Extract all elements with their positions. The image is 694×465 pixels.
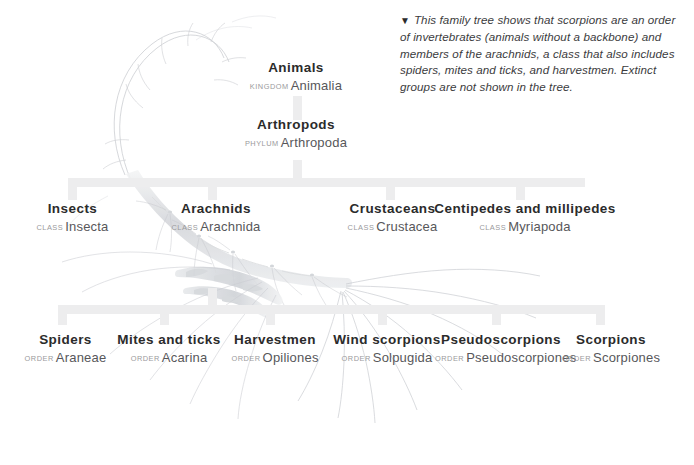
taxon-scientific-name: Arthropoda	[281, 135, 347, 150]
taxon-arthropods[interactable]: Arthropods PHYLUMArthropoda	[216, 117, 376, 152]
taxon-scientific-line: ORDERAcarina	[102, 349, 236, 367]
taxon-common-name: Harvestmen	[218, 332, 332, 348]
connector-order-stub-pseudoscorpions	[492, 305, 501, 325]
taxon-scientific-line: ORDEROpiliones	[218, 349, 332, 367]
taxon-scientific-line: ORDERScorpiones	[546, 349, 676, 367]
taxon-scientific-line: ORDERSolpugida	[325, 349, 449, 367]
taxon-common-name: Insects	[0, 201, 145, 217]
connector-order-rail	[60, 305, 605, 314]
taxon-animals[interactable]: Animals KINGDOMAnimalia	[216, 60, 376, 95]
taxon-rank-label: ORDER	[435, 354, 464, 363]
taxon-scorpions[interactable]: Scorpions ORDERScorpiones	[546, 332, 676, 367]
taxon-scientific-name: Animalia	[291, 78, 342, 93]
taxon-wind-scorpions[interactable]: Wind scorpions ORDERSolpugida	[325, 332, 449, 367]
connector-class-stub-arachnids	[208, 178, 217, 200]
taxon-scientific-name: Solpugida	[373, 350, 433, 365]
taxon-scientific-name: Opiliones	[263, 350, 319, 365]
taxon-scientific-name: Myriapoda	[508, 219, 571, 234]
taxon-scientific-line: CLASSMyriapoda	[432, 218, 618, 236]
taxon-scientific-line: PHYLUMArthropoda	[216, 134, 376, 152]
connector-order-stub-harvestmen	[266, 305, 275, 325]
taxon-rank-label: ORDER	[342, 354, 371, 363]
family-tree-figure: ▼This family tree shows that scorpions a…	[0, 0, 694, 465]
connector-class-stub-insects	[68, 178, 77, 200]
scorpion-tail-curve	[103, 23, 246, 180]
connector-order-stub-spiders	[58, 305, 67, 325]
taxon-common-name: Centipedes and millipedes	[432, 201, 618, 217]
taxon-scientific-line: KINGDOMAnimalia	[216, 77, 376, 95]
taxon-rank-label: CLASS	[348, 223, 375, 232]
connector-class-stub-myriapoda	[516, 178, 525, 200]
taxon-rank-label: PHYLUM	[245, 139, 279, 148]
taxon-myriapods[interactable]: Centipedes and millipedes CLASSMyriapoda	[432, 201, 618, 236]
taxon-rank-label: KINGDOM	[250, 82, 289, 91]
taxon-common-name: Animals	[216, 60, 376, 76]
taxon-common-name: Arthropods	[216, 117, 376, 133]
connector-order-stub-mites	[160, 305, 169, 325]
connector-order-stub-scorpions	[596, 305, 605, 325]
taxon-common-name: Mites and ticks	[102, 332, 236, 348]
taxon-mites-and-ticks[interactable]: Mites and ticks ORDERAcarina	[102, 332, 236, 367]
caption-text: This family tree shows that scorpions ar…	[400, 13, 675, 93]
taxon-rank-label: ORDER	[131, 354, 160, 363]
taxon-scientific-name: Insecta	[65, 219, 108, 234]
taxon-common-name: Wind scorpions	[325, 332, 449, 348]
taxon-rank-label: CLASS	[479, 223, 506, 232]
taxon-scientific-line: CLASSInsecta	[0, 218, 145, 236]
taxon-scientific-name: Scorpiones	[593, 350, 660, 365]
taxon-insects[interactable]: Insects CLASSInsecta	[0, 201, 145, 236]
taxon-scientific-name: Acarina	[162, 350, 207, 365]
taxon-rank-label: ORDER	[231, 354, 260, 363]
caption-triangle-icon: ▼	[400, 15, 410, 26]
figure-caption: ▼This family tree shows that scorpions a…	[400, 12, 688, 95]
taxon-scientific-name: Araneae	[56, 350, 107, 365]
taxon-common-name: Scorpions	[546, 332, 676, 348]
taxon-rank-label: ORDER	[562, 354, 591, 363]
taxon-arachnids[interactable]: Arachnids CLASSArachnida	[140, 201, 292, 236]
taxon-harvestmen[interactable]: Harvestmen ORDEROpiliones	[218, 332, 332, 367]
taxon-rank-label: CLASS	[171, 223, 198, 232]
taxon-common-name: Arachnids	[140, 201, 292, 217]
taxon-scientific-name: Arachnida	[200, 219, 260, 234]
taxon-scientific-line: CLASSArachnida	[140, 218, 292, 236]
connector-order-stub-windscorpions	[378, 305, 387, 325]
taxon-scientific-name: Crustacea	[376, 219, 437, 234]
connector-class-rail	[72, 178, 585, 187]
taxon-rank-label: ORDER	[25, 354, 54, 363]
taxon-rank-label: CLASS	[36, 223, 63, 232]
connector-class-stub-crustaceans	[386, 178, 395, 200]
